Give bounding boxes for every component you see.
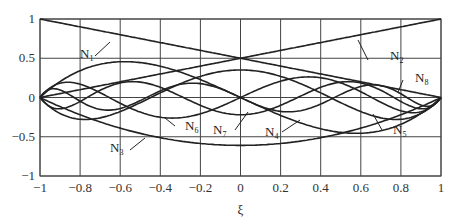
chart: −1−0.8−0.6−0.4−0.200.20.40.60.8110.50−0.… <box>0 0 462 224</box>
x-tick-label: −0.2 <box>189 180 213 195</box>
annotation-n1: N1 <box>80 46 93 63</box>
arrow-icon <box>95 42 110 56</box>
y-tick-label: 0.5 <box>19 50 35 65</box>
annotation-n8: N8 <box>415 70 428 87</box>
x-tick-label: 0 <box>237 180 244 195</box>
x-tick-label: −1 <box>33 180 47 195</box>
arrow-icon <box>130 138 145 150</box>
x-tick-label: 0.8 <box>393 180 409 195</box>
annotation-n3: N3 <box>110 140 123 157</box>
x-tick-label: −0.6 <box>108 180 132 195</box>
x-axis-label: ξ <box>238 202 244 217</box>
y-tick-label: 1 <box>29 11 36 26</box>
annotation-n5: N5 <box>393 122 406 139</box>
y-tick-label: 0 <box>29 90 36 105</box>
x-tick-label: 0.4 <box>313 180 330 195</box>
x-tick-label: −0.8 <box>68 180 92 195</box>
y-tick-label: −1 <box>21 168 35 183</box>
x-tick-label: 1 <box>438 180 445 195</box>
annotation-n6: N6 <box>185 118 198 135</box>
x-tick-label: 0.2 <box>272 180 288 195</box>
arrow-icon <box>358 40 368 60</box>
annotation-n4: N4 <box>265 124 278 141</box>
x-tick-label: −0.4 <box>149 180 173 195</box>
plot: −1−0.8−0.6−0.4−0.200.20.40.60.8110.50−0.… <box>0 0 462 224</box>
y-tick-label: −0.5 <box>11 129 35 144</box>
arrow-icon <box>282 120 300 132</box>
arrow-icon <box>165 118 175 126</box>
annotation-n7: N7 <box>213 122 226 139</box>
x-tick-label: 0.6 <box>353 180 370 195</box>
